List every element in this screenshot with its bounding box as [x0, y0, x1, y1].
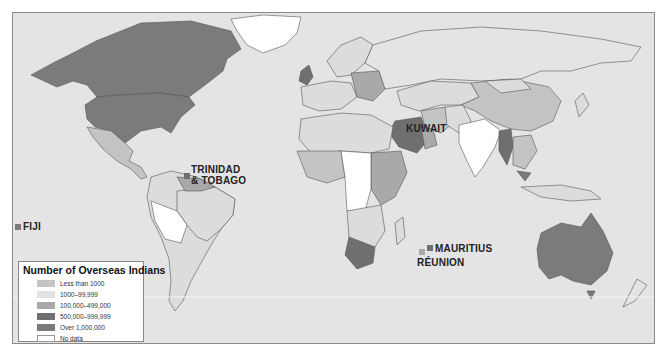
legend-label: Over 1,000,000	[60, 324, 105, 331]
legend-item: Less than 1000	[23, 278, 139, 289]
legend-swatch	[37, 302, 55, 309]
legend-swatch	[37, 335, 55, 342]
legend-label: No data	[60, 335, 83, 342]
west-africa	[297, 151, 345, 183]
trinidad-tobago-label: TRINIDAD & TOBAGO	[191, 164, 246, 186]
canada	[31, 21, 241, 97]
southeast-asia	[513, 135, 537, 169]
india	[459, 119, 501, 177]
greenland	[231, 15, 301, 53]
western-europe	[301, 81, 357, 111]
north-africa	[299, 113, 393, 153]
reunion-marker-icon	[419, 249, 425, 255]
trinidad-label-line2: & TOBAGO	[191, 175, 246, 186]
new-zealand	[623, 279, 647, 307]
uk	[299, 65, 313, 85]
mauritius-label: MAURITIUS	[435, 243, 492, 254]
tasmania	[587, 291, 595, 299]
fiji-marker-icon	[15, 224, 21, 230]
east-africa	[371, 151, 407, 205]
legend-label: 100,000–499,000	[60, 302, 111, 309]
legend-label: 500,000–999,999	[60, 313, 111, 320]
legend-swatch	[37, 324, 55, 331]
madagascar	[395, 217, 405, 245]
legend-swatch	[37, 280, 55, 287]
australia	[537, 213, 613, 285]
legend-label: 1000–99,999	[60, 291, 98, 298]
legend-swatch	[37, 313, 55, 320]
legend-label: Less than 1000	[60, 280, 104, 287]
mauritius-marker-icon	[427, 245, 433, 251]
myanmar	[499, 129, 513, 165]
scandinavia	[327, 37, 373, 77]
reunion-label: RÉUNION	[417, 257, 465, 268]
legend-item: 1000–99,999	[23, 289, 139, 300]
legend-swatch	[37, 291, 55, 298]
fiji-label-text: FIJI	[23, 221, 41, 232]
trinidad-marker-icon	[184, 173, 190, 179]
malaysia	[517, 171, 531, 181]
japan	[575, 93, 589, 117]
fiji-label: FIJI	[15, 221, 41, 232]
legend-item: 500,000–999,999	[23, 311, 139, 322]
central-africa	[341, 151, 371, 211]
kuwait-label: KUWAIT	[406, 123, 447, 134]
legend-item: No data	[23, 333, 139, 344]
legend-item: 100,000–499,000	[23, 300, 139, 311]
indonesia	[521, 185, 601, 201]
trinidad-label-line1: TRINIDAD	[191, 164, 246, 175]
map-legend: Number of Overseas Indians Less than 100…	[18, 261, 144, 342]
legend-title: Number of Overseas Indians	[23, 264, 139, 276]
legend-item: Over 1,000,000	[23, 322, 139, 333]
